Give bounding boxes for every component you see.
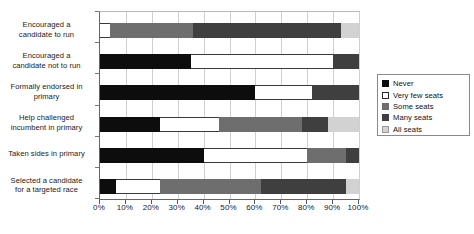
category-label: Encouraged acandidate not to run (0, 51, 93, 70)
bar-segment-never[interactable] (100, 85, 255, 100)
bar-segment-all-seats[interactable] (328, 117, 359, 132)
bar-segment-very-few-seats[interactable] (100, 23, 110, 38)
category-label: Help challengedincumbent in primary (0, 113, 93, 132)
stacked-bar[interactable] (100, 85, 359, 100)
legend-swatch-icon (382, 126, 389, 133)
category-label-line: Taken sides in primary (0, 149, 93, 159)
stacked-bar-chart: Encouraged acandidate to runEncouraged a… (0, 0, 474, 234)
legend-swatch-icon (382, 92, 389, 99)
legend-swatch-icon (382, 80, 389, 87)
category-label-line: Help challenged (0, 113, 93, 123)
category-label: Formally endorsed inprimary (0, 82, 93, 101)
legend-label: All seats (393, 125, 422, 134)
bars-container (100, 12, 359, 199)
legend-label: Some seats (393, 102, 434, 111)
category-label-line: candidate not to run (0, 61, 93, 71)
bar-segment-never[interactable] (100, 54, 191, 69)
category-label-line: Formally endorsed in (0, 82, 93, 92)
bar-segment-many-seats[interactable] (333, 54, 359, 69)
bar-row (100, 43, 359, 74)
chart-legend: NeverVery few seatsSome seatsMany seatsA… (377, 74, 470, 136)
x-axis-tick-label: 100% (338, 203, 378, 212)
stacked-bar[interactable] (100, 23, 359, 38)
bar-row (100, 106, 359, 137)
bar-segment-very-few-seats[interactable] (116, 179, 160, 194)
category-label-line: Selected a candidate (0, 176, 93, 186)
bar-row (100, 168, 359, 199)
category-label-line: Encouraged a (0, 51, 93, 61)
stacked-bar[interactable] (100, 148, 359, 163)
bar-segment-very-few-seats[interactable] (255, 85, 312, 100)
legend-swatch-icon (382, 114, 389, 121)
stacked-bar[interactable] (100, 179, 359, 194)
bar-segment-never[interactable] (100, 179, 116, 194)
category-label: Selected a candidatefor a targeted race (0, 176, 93, 195)
bar-segment-all-seats[interactable] (341, 23, 359, 38)
legend-label: Many seats (393, 113, 432, 122)
bar-segment-some-seats[interactable] (307, 148, 346, 163)
bar-segment-some-seats[interactable] (219, 117, 302, 132)
legend-label: Very few seats (393, 91, 443, 100)
legend-item[interactable]: All seats (382, 124, 466, 135)
bar-segment-all-seats[interactable] (346, 179, 359, 194)
bar-row (100, 74, 359, 105)
legend-item[interactable]: Some seats (382, 101, 466, 112)
category-label: Taken sides in primary (0, 149, 93, 159)
stacked-bar[interactable] (100, 117, 359, 132)
bar-segment-many-seats[interactable] (312, 85, 359, 100)
bar-segment-many-seats[interactable] (302, 117, 328, 132)
bar-segment-many-seats[interactable] (346, 148, 359, 163)
category-axis-labels: Encouraged acandidate to runEncouraged a… (0, 0, 97, 200)
bar-segment-some-seats[interactable] (160, 179, 261, 194)
category-label-line: candidate to run (0, 30, 93, 40)
x-axis-labels: 0%10%20%30%40%50%60%70%80%90%100% (0, 203, 474, 219)
plot-area (99, 11, 360, 200)
category-label-line: primary (0, 92, 93, 102)
legend-swatch-icon (382, 103, 389, 110)
bar-segment-some-seats[interactable] (110, 23, 193, 38)
bar-segment-many-seats[interactable] (193, 23, 341, 38)
bar-segment-very-few-seats[interactable] (191, 54, 333, 69)
legend-item[interactable]: Never (382, 78, 466, 89)
legend-item[interactable]: Very few seats (382, 89, 466, 100)
gridline (359, 12, 360, 199)
category-label-line: incumbent in primary (0, 123, 93, 133)
bar-segment-many-seats[interactable] (261, 179, 346, 194)
bar-segment-never[interactable] (100, 117, 160, 132)
bar-row (100, 12, 359, 43)
category-label-line: Encouraged a (0, 20, 93, 30)
category-label: Encouraged acandidate to run (0, 20, 93, 39)
bar-segment-very-few-seats[interactable] (204, 148, 308, 163)
legend-label: Never (393, 79, 414, 88)
category-label-line: for a targeted race (0, 185, 93, 195)
legend-item[interactable]: Many seats (382, 112, 466, 123)
stacked-bar[interactable] (100, 54, 359, 69)
bar-segment-very-few-seats[interactable] (160, 117, 220, 132)
bar-segment-never[interactable] (100, 148, 204, 163)
bar-row (100, 137, 359, 168)
